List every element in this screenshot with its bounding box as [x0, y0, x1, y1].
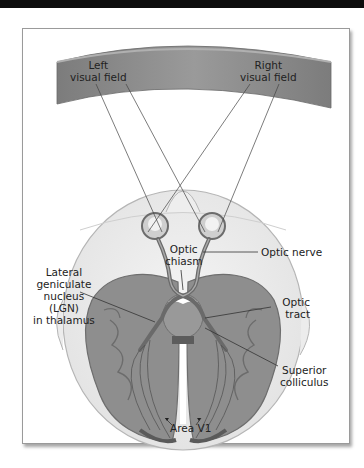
visual-pathway-diagram	[0, 0, 364, 468]
optic-chiasm-label: Optic chiasm	[165, 243, 202, 267]
optic-nerve-label: Optic nerve	[261, 246, 322, 258]
left-visual-field-label: Left visual field	[70, 59, 127, 83]
lgn-label: Lateral geniculate nucleus (LGN) in thal…	[33, 266, 95, 326]
right-visual-field-label: Right visual field	[240, 59, 297, 83]
brain	[86, 275, 281, 442]
right-eye	[199, 213, 225, 239]
superior-colliculus-label: Superior colliculus	[280, 364, 328, 388]
area-v1-label: Area V1	[170, 422, 211, 434]
optic-tract-label: Optic tract	[270, 296, 310, 320]
